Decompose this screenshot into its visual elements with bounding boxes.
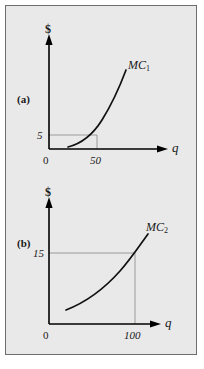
y-axis-label-a: $ — [45, 23, 51, 35]
figure-frame: (a) $ q 5 0 50 MC1 — [5, 5, 197, 355]
panel-a-plot — [6, 6, 198, 181]
panel-label-b: (b) — [17, 238, 30, 249]
x-axis-label-b: q — [165, 316, 172, 329]
x-tick-label-a: 50 — [90, 155, 101, 166]
panel-b: (b) $ q 15 0 100 MC2 — [6, 181, 198, 356]
curve-label-mc1-text: MC — [128, 58, 146, 72]
curve-label-mc2-text: MC — [146, 220, 164, 234]
curve-mc2 — [66, 234, 148, 310]
x-axis-label-a: q — [172, 141, 179, 154]
curve-label-mc1: MC1 — [128, 59, 150, 71]
x-tick-label-b: 100 — [124, 330, 141, 341]
curve-label-mc2-subscript: 2 — [164, 226, 168, 235]
figure-root: (a) $ q 5 0 50 MC1 — [0, 0, 204, 369]
panel-label-a: (a) — [17, 94, 30, 105]
y-tick-label-a: 5 — [37, 130, 43, 141]
y-axis-label-b: $ — [45, 186, 51, 198]
guide-lines-b — [49, 253, 135, 324]
panel-a: (a) $ q 5 0 50 MC1 — [6, 6, 198, 181]
curve-label-mc1-subscript: 1 — [146, 64, 150, 73]
guide-lines-a — [49, 135, 97, 149]
origin-label-a: 0 — [43, 155, 49, 166]
axes-b — [45, 197, 161, 328]
y-tick-label-b: 15 — [33, 248, 44, 259]
curve-label-mc2: MC2 — [146, 221, 168, 233]
origin-label-b: 0 — [43, 330, 49, 341]
